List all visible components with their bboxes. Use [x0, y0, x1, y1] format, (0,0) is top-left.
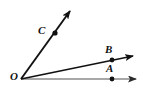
point-label-C: C	[38, 25, 45, 36]
rays-svg	[0, 0, 154, 92]
point-label-A: A	[106, 63, 113, 74]
ray-OC-line	[21, 11, 70, 79]
point-label-B: B	[105, 44, 112, 55]
point-C-dot	[52, 30, 57, 35]
angle-diagram: O C B A	[0, 0, 154, 92]
ray-OB-line	[21, 56, 133, 79]
vertex-label-O: O	[10, 71, 18, 82]
point-A-dot	[110, 77, 115, 82]
